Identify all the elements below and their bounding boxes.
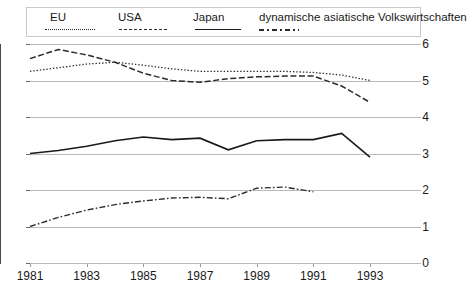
legend-label-usa: USA: [118, 11, 142, 24]
x-axis-tick-label: 1983: [64, 270, 110, 283]
legend-swatch-dashed-icon: [119, 29, 167, 30]
legend-item-usa: USA: [113, 8, 175, 38]
x-axis-tick-label: 1993: [347, 270, 393, 283]
gridline: [30, 263, 421, 264]
x-axis-tick-label: 1991: [290, 270, 336, 283]
series-line-usa: [30, 49, 370, 102]
y-axis: [0, 44, 1, 264]
legend-item-eu: EU: [41, 8, 101, 38]
series-line-asian-economies: [30, 187, 313, 226]
legend-swatch-dashdot-icon: [259, 29, 299, 31]
series-line-japan: [30, 133, 370, 157]
plot-area: [30, 44, 421, 263]
legend-label-eu: EU: [50, 11, 66, 24]
legend-label-asian-economies: dynamische asiatische Volkswirtschaften: [259, 11, 467, 24]
x-axis-tick-label: 1981: [7, 270, 53, 283]
chart-legend: EU USA Japan dynamische asiatische Volks…: [26, 7, 421, 37]
legend-item-japan: Japan: [190, 8, 246, 38]
legend-label-japan: Japan: [193, 11, 224, 24]
legend-swatch-dotted-icon: [45, 29, 95, 30]
legend-swatch-solid-icon: [195, 29, 241, 30]
legend-item-asian-economies: dynamische asiatische Volkswirtschaften: [259, 8, 419, 38]
x-axis-tick-label: 1985: [120, 270, 166, 283]
x-axis-tick-label: 1989: [234, 270, 280, 283]
series-layer: [30, 44, 421, 263]
x-axis-tick-label: 1987: [177, 270, 223, 283]
